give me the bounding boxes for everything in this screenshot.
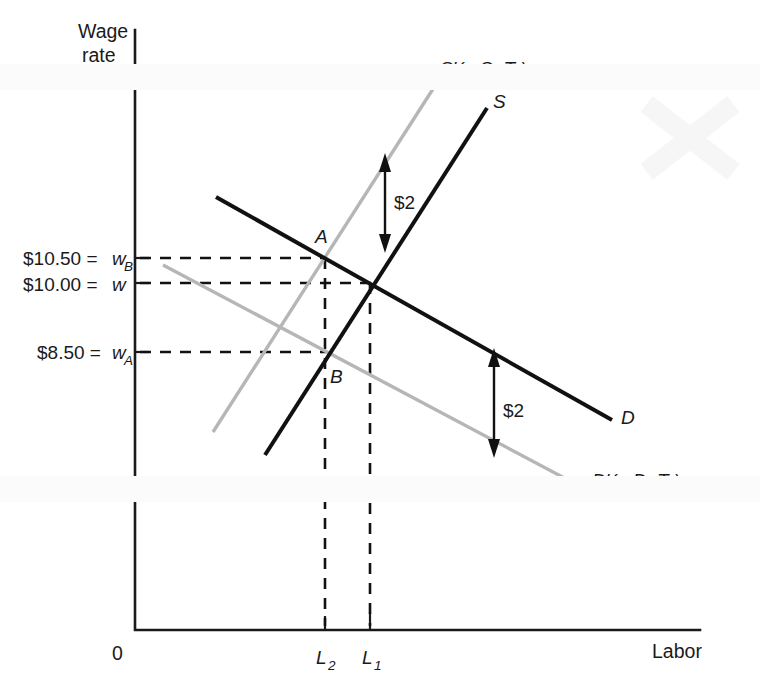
- curve-label-supply-shifted-paren: (= S+T ): [457, 58, 527, 79]
- point-label-b: B: [330, 366, 343, 387]
- y-tick-label-w: $10.00 = w: [23, 274, 127, 295]
- y-tick-label-wa-value: $8.50 =: [37, 342, 101, 363]
- y-tick-label-wb-sub: B: [124, 259, 133, 274]
- y-tick-label-wa: $8.50 = w A: [37, 342, 133, 368]
- x-tick-label-l1-var: L: [362, 647, 373, 668]
- point-label-a: A: [314, 226, 328, 247]
- curve-label-supply-shifted: S′ (= S+T ): [440, 58, 527, 79]
- x-tick-label-l1-sub: 1: [374, 658, 382, 673]
- annotation-tax-wedge-lower: $2: [503, 400, 524, 421]
- x-tick-label-l2-sub: 2: [327, 658, 336, 673]
- x-tick-label-l1: L 1: [362, 647, 382, 673]
- x-tick-label-l2: L 2: [316, 647, 336, 673]
- curve-supply: [265, 108, 487, 455]
- curve-label-demand-shifted: D′ (= D–T ): [592, 470, 680, 491]
- curve-demand-shifted: [163, 265, 587, 490]
- curve-label-demand: D: [621, 407, 635, 428]
- curve-label-demand-shifted-main: D′: [592, 470, 611, 491]
- x-axis-title: Labor: [652, 640, 702, 662]
- y-axis-title-line2: rate: [82, 44, 116, 66]
- y-tick-label-w-var: w: [112, 274, 127, 295]
- curve-label-supply: S: [493, 91, 506, 112]
- curve-supply-shifted: [213, 78, 440, 432]
- axis-lines: [135, 30, 700, 630]
- y-tick-label-wb: $10.50 = w B: [23, 248, 133, 274]
- y-tick-label-wa-sub: A: [123, 353, 133, 368]
- tax-wedge-upper-arrow: [379, 153, 391, 253]
- y-tick-label-wb-value: $10.50 =: [23, 248, 98, 269]
- tax-wedge-lower-arrow: [488, 348, 500, 458]
- labor-market-tax-figure: Wage rate Labor 0 $10.50 = w B $10.00 = …: [0, 0, 760, 680]
- curve-demand: [216, 197, 612, 420]
- y-tick-label-w-value: $10.00 =: [23, 274, 98, 295]
- y-axis-title-line1: Wage: [78, 20, 128, 42]
- curve-label-supply-shifted-main: S′: [440, 58, 458, 79]
- x-tick-label-l2-var: L: [316, 647, 327, 668]
- origin-label: 0: [112, 642, 123, 664]
- annotation-tax-wedge-upper: $2: [394, 192, 415, 213]
- chart-canvas: Wage rate Labor 0 $10.50 = w B $10.00 = …: [0, 0, 760, 680]
- curve-label-demand-shifted-paren: (= D–T ): [610, 470, 680, 491]
